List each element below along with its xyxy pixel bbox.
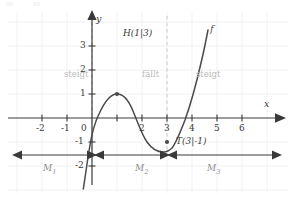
x-axis-label: x [264,99,269,109]
arrow-m3-left [167,151,177,160]
interval-label-m3-text: M [207,163,216,173]
interval-label-m1-sub: 1 [52,168,56,176]
arrow-m3-right [272,151,282,160]
y-tick-label-3: 3 [80,41,86,50]
y-axis-label: y [96,14,101,24]
x-tick-label-3: 3 [164,124,170,133]
curve-label-f: f [210,24,214,34]
x-tick-label--2: -2 [36,124,45,133]
x-tick-label-5: 5 [214,124,220,133]
monotonicity-label-left: steigt [64,70,88,79]
interval-label-m1-text: M [43,163,52,173]
y-tick-label-1: 1 [80,89,86,98]
minimum-point-marker [165,140,169,144]
interval-label-m2-sub: 2 [144,168,148,176]
y-tick-label--2: -2 [75,161,84,170]
y-axis [87,10,96,185]
y-tick-label--1: -1 [75,137,84,146]
monotonicity-label-middle: fällt [142,70,159,79]
interval-label-m3-sub: 3 [216,168,220,176]
interval-label-m1: M1 [43,164,56,175]
maximum-point-label: H(1|3) [123,29,152,38]
interval-label-m3: M3 [207,164,220,175]
x-tick-label-4: 4 [189,124,195,133]
x-tick-label-6: 6 [239,124,245,133]
function-graph-figure: x y -2 -1 0 2 3 4 5 6 3 2 1 -1 -2 H(1|3)… [0,0,293,197]
x-tick-label--1: -1 [61,124,70,133]
arrow-m2-left [94,151,104,160]
x-tick-label-0: 0 [81,124,87,133]
interval-label-m2-text: M [135,163,144,173]
minimum-point-label: T(3|-1) [176,137,207,146]
interval-label-m2: M2 [135,164,148,175]
maximum-point-marker [115,92,119,96]
x-tick-label-2: 2 [139,124,145,133]
x-axis [8,113,286,123]
monotonicity-label-right: steigt [196,70,220,79]
